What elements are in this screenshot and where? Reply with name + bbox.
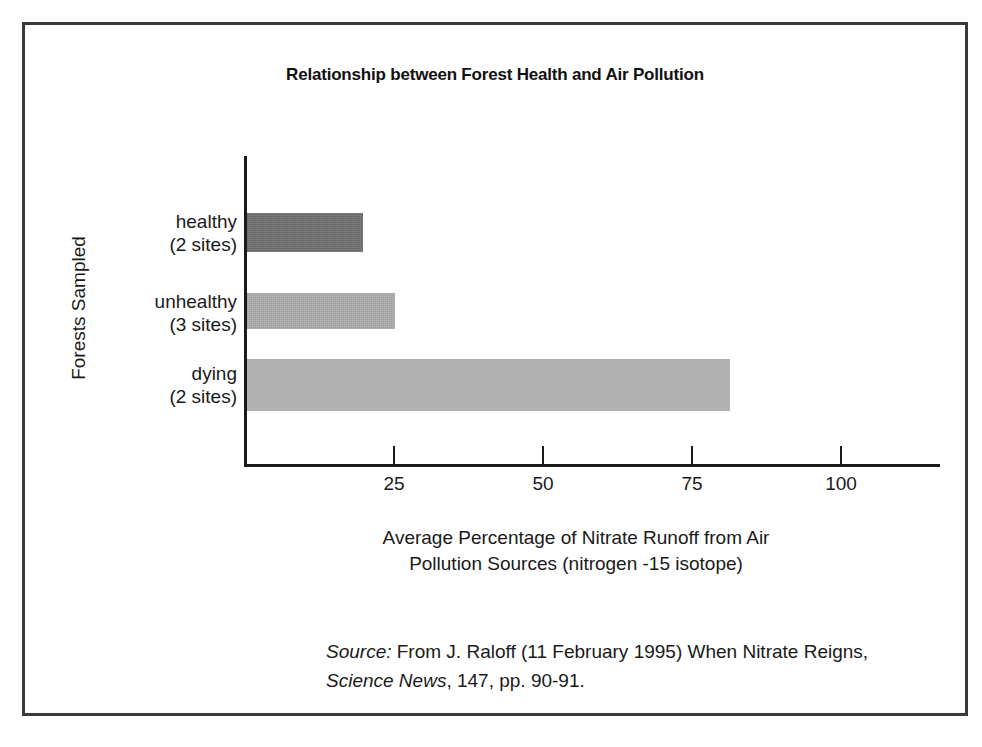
x-axis-title: Average Percentage of Nitrate Runoff fro… [286, 525, 866, 577]
category-label-healthy-line2: (2 sites) [169, 234, 237, 255]
x-tick-mark-25 [393, 446, 395, 465]
source-text-after: , 147, pp. 90-91. [446, 670, 584, 691]
x-axis-title-line2: Pollution Sources (nitrogen -15 isotope) [409, 553, 743, 574]
x-tick-label-75: 75 [662, 473, 722, 495]
x-axis-title-line1: Average Percentage of Nitrate Runoff fro… [383, 527, 770, 548]
source-publication: Science News [326, 670, 446, 691]
bar-healthy [247, 213, 363, 252]
bar-unhealthy [247, 293, 395, 329]
category-label-unhealthy-line1: unhealthy [155, 291, 237, 312]
source-label: Source: [326, 641, 391, 662]
source-note: Source: From J. Raloff (11 February 1995… [326, 637, 886, 695]
scanned-page: Relationship between Forest Health and A… [0, 0, 982, 747]
x-tick-mark-75 [691, 446, 693, 465]
figure-frame: Relationship between Forest Health and A… [22, 22, 968, 716]
x-tick-label-25: 25 [364, 473, 424, 495]
x-tick-mark-50 [542, 446, 544, 465]
category-label-unhealthy: unhealthy (3 sites) [77, 290, 237, 336]
x-axis-line [244, 464, 940, 467]
x-tick-mark-100 [840, 446, 842, 465]
category-label-dying: dying (2 sites) [77, 362, 237, 408]
category-label-dying-line1: dying [192, 363, 237, 384]
category-label-healthy: healthy (2 sites) [77, 210, 237, 256]
y-axis-title: Forests Sampled [68, 208, 90, 408]
category-label-healthy-line1: healthy [176, 211, 237, 232]
bar-dying [247, 359, 730, 411]
category-label-unhealthy-line2: (3 sites) [169, 314, 237, 335]
bar-chart-plot: healthy (2 sites) unhealthy (3 sites) dy… [25, 25, 982, 747]
x-tick-label-50: 50 [513, 473, 573, 495]
category-label-dying-line2: (2 sites) [169, 386, 237, 407]
source-text-before: From J. Raloff (11 February 1995) When N… [391, 641, 868, 662]
x-tick-label-100: 100 [811, 473, 871, 495]
